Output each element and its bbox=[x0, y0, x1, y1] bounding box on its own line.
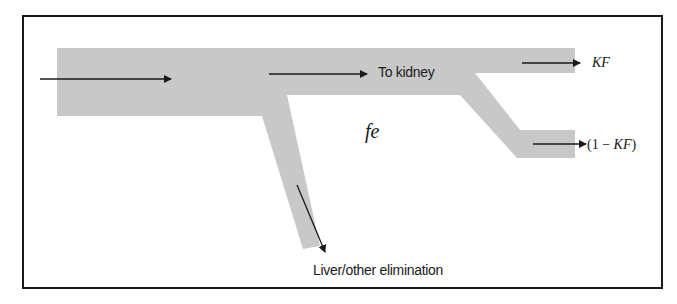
main-channel bbox=[57, 48, 575, 249]
to-kidney-label: To kidney bbox=[378, 64, 434, 80]
one-minus-kf-close: ) bbox=[631, 137, 636, 152]
liver-elimination-label: Liver/other elimination bbox=[313, 262, 443, 278]
flow-diagram bbox=[0, 0, 677, 304]
one-minus-kf-label: (1 − KF) bbox=[587, 136, 636, 153]
one-minus-kf-open: (1 − bbox=[587, 137, 614, 152]
kf-label: KF bbox=[592, 55, 610, 71]
fe-label: fe bbox=[365, 120, 379, 143]
one-minus-kf-var: KF bbox=[614, 137, 632, 152]
